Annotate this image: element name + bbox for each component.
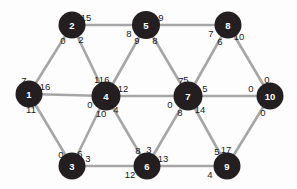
edge-weight-9-10-at-9: 17 <box>221 144 232 155</box>
node-label-8: 8 <box>225 20 230 31</box>
edge-weight-1-4-at-4: 0 <box>87 99 92 110</box>
node-label-6: 6 <box>144 161 149 172</box>
edge-weight-6-7-at-7: 8 <box>177 107 182 118</box>
node-label-4: 4 <box>103 91 109 102</box>
node-label-9: 9 <box>224 161 229 172</box>
node-label-1: 1 <box>26 89 32 100</box>
edge-weight-9-10-at-10: 0 <box>260 107 265 118</box>
node-label-10: 10 <box>265 91 276 102</box>
node-label-7: 7 <box>185 91 190 102</box>
edge-weight-4-7-at-4: 12 <box>118 83 129 94</box>
edge-weight-3-6-at-6: 12 <box>125 169 136 180</box>
edge-weight-5-7-at-5: 8 <box>152 35 157 46</box>
edge-weight-4-5-at-5: 9 <box>134 35 139 46</box>
edge-weight-2-4-at-2: 2 <box>78 34 83 45</box>
edge-weight-4-6-at-4: 4 <box>113 104 118 115</box>
edge-weight-1-3-at-3: 0 <box>58 149 63 160</box>
edge-weight-7-9-at-9: 5 <box>214 146 219 157</box>
edge-weight-2-5-at-2: 15 <box>81 12 92 23</box>
edge-weight-5-8-at-5: 9 <box>158 12 163 23</box>
edge-weight-1-2-at-1: 7 <box>21 75 26 86</box>
edge-weight-4-7-at-7: 0 <box>167 99 172 110</box>
graph-node-9[interactable]: 9 <box>214 153 241 180</box>
edge-weight-1-4-at-1: 16 <box>40 81 51 92</box>
graph-node-10[interactable]: 10 <box>257 83 284 110</box>
edge-weight-1-3-at-1: 11 <box>26 104 36 115</box>
edge-weight-7-10-at-10: 0 <box>248 83 253 94</box>
edge-weight-7-10-at-7: 5 <box>202 83 207 94</box>
edge-weight-5-7-at-7: 5 <box>183 74 188 85</box>
graph-canvas: 12345678910 1589770211698576100160120501… <box>0 0 297 189</box>
edge-weight-6-7-at-6: 3 <box>146 144 151 155</box>
edge-weight-6-9-at-9: 4 <box>207 169 212 180</box>
edge-weight-3-4-at-4: 10 <box>96 108 107 119</box>
edge-weight-4-5-at-4: 6 <box>104 74 109 85</box>
graph-node-6[interactable]: 6 <box>134 153 161 180</box>
edge-weight-4-6-at-6: 8 <box>135 145 140 156</box>
edge-weight-1-2-at-2: 0 <box>60 35 65 46</box>
node-label-2: 2 <box>69 20 74 31</box>
node-label-5: 5 <box>143 20 149 31</box>
node-label-3: 3 <box>69 161 74 172</box>
edge-weight-7-8-at-8: 6 <box>217 36 222 47</box>
edge-weight-7-8-at-7: 7 <box>178 75 183 86</box>
edge-weight-2-5-at-5: 8 <box>126 28 131 39</box>
edge-weight-3-6-at-3: 3 <box>85 153 90 164</box>
edge-weight-2-4-at-4: 11 <box>94 74 104 85</box>
edge-weight-7-9-at-7: 14 <box>195 104 206 115</box>
edge-weight-8-10-at-10: 0 <box>264 74 269 85</box>
edge-weight-8-10-at-8: 10 <box>234 31 245 42</box>
edge-weight-3-4-at-3: 6 <box>77 148 82 159</box>
edge-weight-5-8-at-8: 7 <box>208 28 213 39</box>
graph-diagram: 12345678910 1589770211698576100160120501… <box>0 0 297 189</box>
edge-weight-6-9-at-6: 13 <box>158 153 169 164</box>
